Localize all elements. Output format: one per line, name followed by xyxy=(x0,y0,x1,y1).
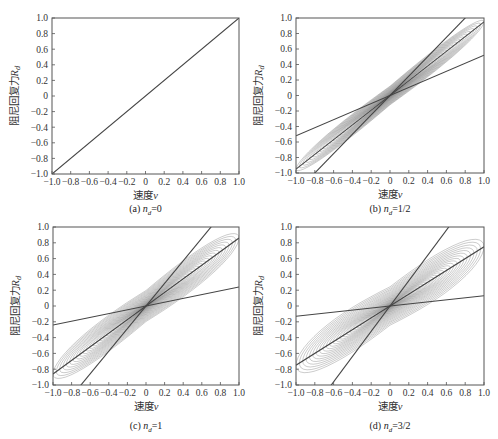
x-tick-label: 0.2 xyxy=(158,177,170,187)
x-tick-label: −0.8 xyxy=(306,176,323,186)
y-tick-label: −0.4 xyxy=(32,333,49,343)
y-tick-label: −0.4 xyxy=(275,122,292,132)
y-tick-label: −0.6 xyxy=(32,349,49,359)
x-tick-label: −0.6 xyxy=(82,388,99,398)
y-tick-label: 0 xyxy=(43,91,48,101)
chart-panel-c: −1.0−0.8−0.6−0.4−0.200.20.40.60.81.01.00… xyxy=(9,193,245,419)
x-axis-label: 速度v xyxy=(378,400,403,412)
x-tick-label: −0.8 xyxy=(63,388,80,398)
y-axis-label: 阻尼回复力Rd xyxy=(8,65,22,126)
y-tick-label: 0.4 xyxy=(280,270,292,280)
x-tick-label: 1.0 xyxy=(478,176,490,186)
x-tick-label: −0.2 xyxy=(363,176,380,186)
y-tick-label: 0.4 xyxy=(280,60,292,70)
plot-area xyxy=(296,0,484,192)
y-tick-label: 0.6 xyxy=(36,45,48,55)
x-axis-label: 速度v xyxy=(134,400,159,412)
caption-d: (d) nd=3/2 xyxy=(290,420,490,434)
y-tick-label: −1.0 xyxy=(275,380,292,390)
y-tick-label: 0.4 xyxy=(37,270,49,280)
x-tick-label: −0.8 xyxy=(306,388,323,398)
x-tick-label: −0.4 xyxy=(344,388,361,398)
y-tick-label: −0.8 xyxy=(32,365,49,375)
x-tick-label: −0.2 xyxy=(118,177,135,187)
x-tick-label: 1.0 xyxy=(233,177,245,187)
x-tick-label: 0.8 xyxy=(459,176,471,186)
x-tick-label: 0.6 xyxy=(196,388,208,398)
y-tick-label: −1.0 xyxy=(31,169,48,179)
y-tick-label: 1.0 xyxy=(280,13,292,23)
y-tick-label: 0.8 xyxy=(280,238,292,248)
plot-area xyxy=(52,18,239,174)
x-tick-label: −0.4 xyxy=(99,177,116,187)
chart-panel-d: −1.0−0.8−0.6−0.4−0.200.20.40.60.81.01.00… xyxy=(252,180,490,433)
y-tick-label: 0 xyxy=(44,301,49,311)
y-tick-label: −0.2 xyxy=(275,317,292,327)
x-tick-label: 0 xyxy=(388,176,393,186)
x-tick-label: 1.0 xyxy=(478,388,490,398)
x-tick-label: −0.4 xyxy=(344,176,361,186)
y-tick-label: −0.6 xyxy=(275,137,292,147)
x-tick-label: 0 xyxy=(143,177,148,187)
y-tick-label: −0.4 xyxy=(275,333,292,343)
caption-b: (b) nd=1/2 xyxy=(290,203,490,217)
y-tick-label: 1.0 xyxy=(280,222,292,232)
figure: −1.0−0.8−0.6−0.4−0.200.20.40.60.81.01.00… xyxy=(0,0,498,439)
x-tick-label: 0 xyxy=(144,388,149,398)
y-tick-label: 1.0 xyxy=(36,13,48,23)
x-tick-label: −0.6 xyxy=(325,388,342,398)
y-tick-label: 0.2 xyxy=(280,75,292,85)
x-tick-label: 0.6 xyxy=(196,177,208,187)
x-tick-label: 0 xyxy=(388,388,393,398)
y-tick-label: 0 xyxy=(287,91,292,101)
y-tick-label: −1.0 xyxy=(275,168,292,178)
y-tick-label: −1.0 xyxy=(32,380,49,390)
y-tick-label: 0.8 xyxy=(280,29,292,39)
y-tick-label: −0.2 xyxy=(275,106,292,116)
y-axis-label: 阻尼回复力Rd xyxy=(9,275,23,336)
x-tick-label: 0.6 xyxy=(440,176,452,186)
x-tick-label: 0.2 xyxy=(159,388,171,398)
y-tick-label: 1.0 xyxy=(37,222,49,232)
y-tick-label: −0.8 xyxy=(275,365,292,375)
x-tick-label: 0.4 xyxy=(422,388,434,398)
y-tick-label: 0.2 xyxy=(280,286,292,296)
x-tick-label: −0.8 xyxy=(62,177,79,187)
x-tick-label: 0.6 xyxy=(440,388,452,398)
y-tick-label: −0.6 xyxy=(31,138,48,148)
mean-line xyxy=(52,18,239,174)
x-tick-label: 0.4 xyxy=(177,177,189,187)
y-tick-label: −0.8 xyxy=(31,154,48,164)
caption-c: (c) nd=1 xyxy=(46,420,246,434)
y-axis-label: 阻尼回复力Rd xyxy=(252,65,266,126)
x-tick-label: 0.4 xyxy=(422,176,434,186)
lower-line xyxy=(296,55,484,136)
y-tick-label: −0.4 xyxy=(31,123,48,133)
x-tick-label: −0.6 xyxy=(81,177,98,187)
x-tick-label: 0.2 xyxy=(403,388,415,398)
y-tick-label: −0.2 xyxy=(32,317,49,327)
caption-a: (a) nd=0 xyxy=(46,203,246,217)
y-tick-label: 0.6 xyxy=(280,44,292,54)
y-tick-label: 0.2 xyxy=(37,286,49,296)
x-tick-label: −0.6 xyxy=(325,176,342,186)
x-tick-label: 0.8 xyxy=(459,388,471,398)
chart-panel-a: −1.0−0.8−0.6−0.4−0.200.20.40.60.81.01.00… xyxy=(8,13,245,201)
x-tick-label: −0.2 xyxy=(363,388,380,398)
x-tick-label: −0.2 xyxy=(119,388,136,398)
x-tick-label: 0.2 xyxy=(403,176,415,186)
x-axis-label: 速度v xyxy=(133,189,158,201)
y-tick-label: 0.4 xyxy=(36,60,48,70)
y-tick-label: 0.8 xyxy=(36,29,48,39)
x-tick-label: 0.8 xyxy=(214,177,226,187)
y-tick-label: −0.2 xyxy=(31,107,48,117)
x-tick-label: 0.4 xyxy=(177,388,189,398)
chart-panel-b: −1.0−0.8−0.6−0.4−0.200.20.40.60.81.01.00… xyxy=(252,0,490,200)
y-tick-label: 0.8 xyxy=(37,238,49,248)
y-tick-label: −0.6 xyxy=(275,349,292,359)
y-tick-label: 0.6 xyxy=(280,254,292,264)
y-tick-label: 0 xyxy=(287,301,292,311)
x-tick-label: −0.4 xyxy=(100,388,117,398)
x-tick-label: 1.0 xyxy=(233,388,245,398)
y-tick-label: 0.2 xyxy=(36,76,48,86)
